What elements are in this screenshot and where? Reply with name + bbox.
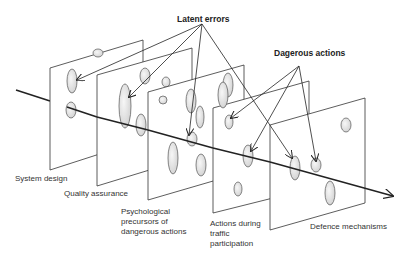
- latent-errors-label: Latent errors: [177, 14, 229, 24]
- layer-label-system-design: System design: [15, 174, 67, 184]
- swiss-cheese-diagram: Latent errors Dagerous actions System de…: [0, 0, 406, 260]
- dangerous-actions-label: Dagerous actions: [274, 48, 345, 58]
- layer-label-psychological-precursors: Psychological precursors of dangerous ac…: [121, 207, 186, 237]
- diagram-canvas: [0, 0, 406, 260]
- layer-label-quality-assurance: Quality assurance: [64, 189, 128, 199]
- trajectory-segment: [16, 90, 50, 101]
- layer-label-defence-mechanisms: Defence mechanisms: [310, 222, 387, 232]
- layer-label-actions-during-traffic: Actions during traffic participation: [210, 219, 261, 249]
